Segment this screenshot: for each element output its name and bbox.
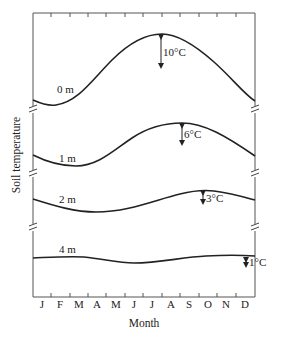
depth-label-1m: 1 m bbox=[59, 152, 76, 164]
month-label: A bbox=[167, 298, 175, 310]
top-ticks bbox=[51, 13, 236, 17]
depth-label-0m: 0 m bbox=[57, 83, 74, 95]
y-axis-title: Soil temperature bbox=[10, 117, 23, 193]
month-label: A bbox=[93, 298, 101, 310]
curve-4m bbox=[33, 255, 255, 263]
month-label: J bbox=[40, 298, 45, 310]
month-label: F bbox=[57, 298, 63, 310]
x-axis-title: Month bbox=[129, 317, 160, 329]
depth-label-2m: 2 m bbox=[59, 193, 76, 205]
month-label: M bbox=[74, 298, 84, 310]
month-label: S bbox=[186, 298, 192, 310]
month-label: M bbox=[111, 298, 121, 310]
month-label: N bbox=[222, 298, 230, 310]
amplitude-arrows bbox=[161, 37, 246, 265]
amplitude-label-2m: 3°C bbox=[206, 192, 223, 204]
month-label: J bbox=[132, 298, 137, 310]
month-label: D bbox=[241, 298, 249, 310]
amplitude-label-0m: 10°C bbox=[163, 46, 186, 58]
amplitude-label-1m: 6°C bbox=[184, 128, 201, 140]
month-labels: J F M A M J J A S O N D bbox=[40, 298, 249, 310]
axis-break-marks bbox=[29, 105, 259, 230]
bottom-ticks bbox=[51, 293, 236, 297]
depth-label-4m: 4 m bbox=[59, 243, 76, 255]
soil-temperature-chart: 0 m 1 m 2 m 4 m 10°C 6°C 3°C 1°C J F M A… bbox=[0, 0, 281, 339]
month-label: J bbox=[150, 298, 155, 310]
amplitude-label-4m: 1°C bbox=[249, 256, 266, 268]
month-label: O bbox=[204, 298, 212, 310]
